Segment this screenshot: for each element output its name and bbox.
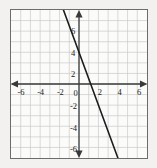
- y-tick-label-2: 2: [71, 70, 75, 79]
- line-segment: [58, 9, 123, 159]
- x-tick-label-4: 4: [117, 88, 121, 97]
- origin-label: 0: [73, 88, 77, 98]
- x-tick-label--6: -6: [18, 88, 25, 97]
- coordinate-plane: -6 -4 -2 2 4 6 6 4 2 -2 -4 -6 0: [10, 9, 148, 159]
- y-tick-label--4: -4: [70, 124, 77, 133]
- y-tick-label--2: -2: [70, 102, 77, 111]
- graph-figure: -6 -4 -2 2 4 6 6 4 2 -2 -4 -6 0: [0, 0, 157, 168]
- y-tick-label-6: 6: [71, 27, 75, 36]
- plotted-line: [11, 10, 147, 158]
- x-tick-label-6: 6: [137, 88, 141, 97]
- y-tick-label--6: -6: [70, 145, 77, 154]
- x-tick-label--4: -4: [37, 88, 44, 97]
- x-tick-label--2: -2: [57, 88, 64, 97]
- x-tick-label-2: 2: [98, 88, 102, 97]
- y-tick-label-4: 4: [71, 49, 75, 58]
